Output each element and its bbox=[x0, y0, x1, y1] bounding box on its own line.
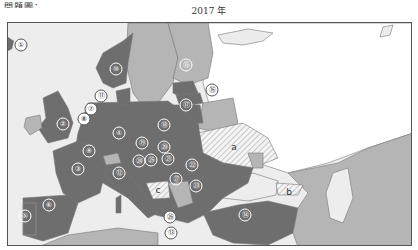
label-2: ② bbox=[57, 118, 70, 131]
label-23: ㉓ bbox=[190, 180, 203, 193]
map-title: 2017 年 bbox=[0, 4, 418, 17]
label-24: ㉔ bbox=[133, 155, 146, 168]
label-b: b bbox=[284, 187, 295, 198]
label-21: ㉑ bbox=[162, 153, 175, 166]
label-18: ⑱ bbox=[158, 119, 171, 132]
label-27: ㉗ bbox=[170, 173, 183, 186]
label-14: ⑭ bbox=[239, 209, 252, 222]
label-19: ⑲ bbox=[136, 137, 149, 150]
europe-map bbox=[8, 23, 412, 246]
label-3: ③ bbox=[72, 163, 85, 176]
label-1: ① bbox=[15, 39, 28, 52]
label-10: ⑩ bbox=[110, 63, 123, 76]
sardinia bbox=[116, 195, 121, 213]
label-8: ⑧ bbox=[78, 113, 91, 126]
label-13: ⑬ bbox=[165, 227, 178, 240]
label-11: ⑪ bbox=[95, 90, 108, 103]
label-a: a bbox=[229, 142, 240, 153]
label-15: ⑮ bbox=[180, 59, 193, 72]
map-frame: ① ② ③ ④ ⑤ ⑥ ⑦ ⑧ ⑨ ⑩ ⑪ ⑫ ⑬ ⑭ ⑮ ⑯ ⑰ ⑱ ⑲ ⑳ … bbox=[7, 22, 412, 246]
label-25: ㉕ bbox=[145, 154, 158, 167]
label-12: ⑫ bbox=[113, 167, 126, 180]
label-22: ㉒ bbox=[186, 159, 199, 172]
label-5: ⑤ bbox=[19, 210, 32, 223]
label-c: c bbox=[153, 185, 164, 196]
label-26: ㉖ bbox=[164, 211, 177, 224]
label-9: ⑨ bbox=[83, 145, 96, 158]
label-4: ④ bbox=[113, 127, 126, 140]
label-16: ⑯ bbox=[206, 84, 219, 97]
region-11 bbox=[116, 88, 130, 105]
label-17: ⑰ bbox=[180, 99, 193, 112]
label-6: ⑥ bbox=[43, 199, 56, 212]
